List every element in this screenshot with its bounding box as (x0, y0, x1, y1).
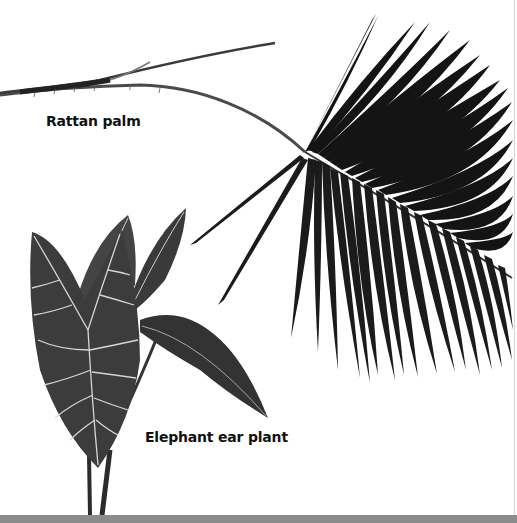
elephant-ear-plant-art (30, 208, 268, 515)
bottom-bar (0, 515, 517, 523)
elephant-ear-plant-label: Elephant ear plant (145, 429, 288, 445)
right-edge-line (514, 0, 515, 515)
page-canvas: Rattan palm Elephant ear plant (0, 0, 517, 523)
rattan-palm-label: Rattan palm (46, 113, 141, 129)
rattan-palm-stem (0, 43, 305, 152)
